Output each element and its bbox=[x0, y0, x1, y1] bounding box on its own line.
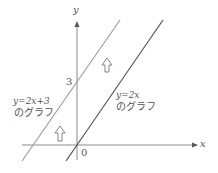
x-axis-label: x bbox=[200, 139, 206, 149]
origin-label: 0 bbox=[81, 148, 87, 158]
y-axis-arrow-icon bbox=[75, 21, 80, 27]
up-arrow-icon bbox=[102, 58, 112, 72]
caption-base-graph: のグラフ bbox=[116, 102, 156, 112]
x-axis-arrow-icon bbox=[192, 143, 198, 148]
line-y-2x-plus-3 bbox=[22, 20, 120, 161]
graph-diagram: y x 0 3 y=2x+3 のグラフ y=2x のグラフ bbox=[0, 0, 218, 173]
line-y-2x bbox=[66, 20, 163, 161]
caption-base-equation: y=2x bbox=[116, 91, 139, 100]
caption-shifted-graph: のグラフ bbox=[14, 108, 54, 118]
up-arrow-icon bbox=[55, 126, 65, 141]
caption-shifted-equation: y=2x+3 bbox=[13, 97, 50, 106]
y-axis-label: y bbox=[73, 5, 79, 15]
y-intercept-label: 3 bbox=[66, 77, 72, 87]
graph-canvas bbox=[0, 0, 218, 173]
